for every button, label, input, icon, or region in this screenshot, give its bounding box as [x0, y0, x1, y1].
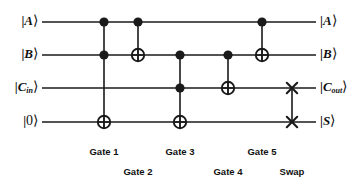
gate-3[interactable]: [174, 50, 186, 128]
control-dot-icon: [133, 17, 142, 26]
gate-1[interactable]: [98, 17, 110, 128]
gate-4[interactable]: [222, 50, 234, 94]
out-cout-label: |Cout⟩: [320, 80, 347, 95]
out-a-label: |A⟩: [320, 14, 337, 28]
gate-2-caption: Gate 2: [98, 167, 178, 177]
swap[interactable]: [287, 83, 297, 127]
out-b-label: |B⟩: [320, 47, 337, 61]
control-dot-icon: [175, 83, 184, 92]
control-dot-icon: [175, 50, 184, 59]
circuit-canvas: [0, 0, 358, 185]
swap-caption: Swap: [252, 167, 332, 177]
gate-2[interactable]: [132, 17, 144, 61]
quantum-gates-group: [98, 17, 297, 128]
in-a-label: |A⟩: [21, 14, 38, 28]
in-zero-label: |0⟩: [23, 114, 38, 128]
quantum-circuit-figure: |A⟩|B⟩|Cin⟩|0⟩ |A⟩|B⟩|Cout⟩|S⟩ Gate 1Gat…: [0, 0, 358, 185]
gate-5[interactable]: [256, 17, 268, 61]
gate-1-caption: Gate 1: [64, 147, 144, 157]
in-b-label: |B⟩: [21, 47, 38, 61]
control-dot-icon: [257, 17, 266, 26]
in-cin-label: |Cin⟩: [15, 80, 38, 95]
control-dot-icon: [223, 50, 232, 59]
out-s-label: |S⟩: [320, 114, 335, 128]
control-dot-icon: [99, 17, 108, 26]
control-dot-icon: [99, 50, 108, 59]
gate-5-caption: Gate 5: [222, 147, 302, 157]
gate-3-caption: Gate 3: [140, 147, 220, 157]
qubit-wires-group: [42, 22, 316, 122]
